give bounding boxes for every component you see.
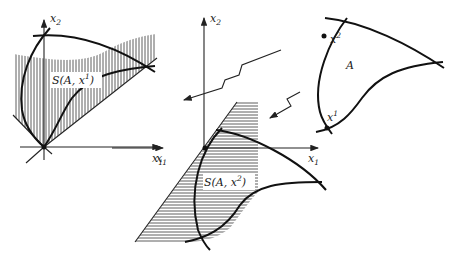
cone-region-s-a-x1 — [14, 34, 156, 147]
point-x2-label: x2 — [330, 31, 341, 46]
point-x1-left — [42, 145, 47, 150]
x2-axis-label-middle: x2 — [210, 12, 221, 27]
right-panel: A x2 x1 — [316, 18, 444, 134]
origin-point-middle — [203, 146, 208, 151]
translation-arrow-lower — [270, 92, 300, 118]
set-a-top-boundary — [325, 18, 444, 68]
x2-axis-label-left: x2 — [50, 12, 61, 27]
left-panel: x2 x1 S(A, x1) — [13, 12, 163, 167]
set-a-label: A — [345, 59, 354, 72]
point-x2 — [322, 34, 327, 39]
ray-lower-left — [26, 147, 44, 163]
point-x1-label: x1 — [327, 109, 338, 124]
set-a-bottom-boundary — [316, 62, 443, 132]
x1-axis-label-left-fragment: x1 — [156, 152, 167, 167]
point-x1 — [325, 126, 330, 131]
translation-arrow-upper — [184, 50, 281, 100]
diagram-canvas: x2 x1 S(A, x1) x2 x1 x1 S(A, x2) — [0, 0, 454, 260]
x1-axis-label-middle: x1 — [308, 152, 319, 167]
